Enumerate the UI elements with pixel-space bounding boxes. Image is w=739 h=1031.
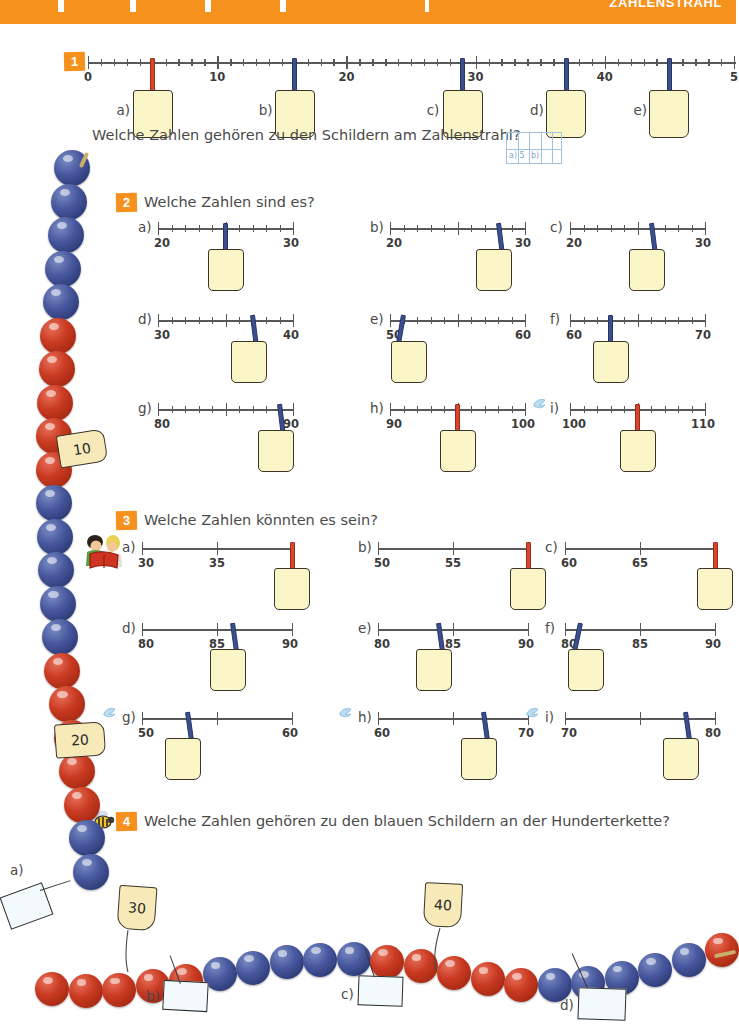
bead-highlight: [613, 966, 623, 973]
bead-blue: [236, 951, 270, 985]
ex4-label-b: b): [146, 988, 160, 1004]
bead-blue: [638, 953, 672, 987]
bead-highlight: [680, 948, 690, 955]
bead-red: [404, 949, 438, 983]
bead-highlight: [512, 973, 522, 980]
bead-highlight: [311, 947, 321, 954]
bead-red: [370, 945, 404, 979]
bead-highlight: [546, 973, 556, 980]
bead-red: [437, 956, 471, 990]
bead-red: [471, 962, 505, 996]
ex4-label-a: a): [10, 862, 24, 878]
bead-highlight: [177, 968, 187, 975]
bead-highlight: [43, 977, 53, 984]
ex4-label-c: c): [341, 986, 354, 1002]
bead-highlight: [144, 974, 154, 981]
bead-chain-tag-20-value: 20: [56, 730, 105, 749]
bead-highlight: [278, 950, 288, 957]
bead-highlight: [345, 947, 355, 954]
ex4-answer-box-d[interactable]: [577, 987, 626, 1021]
bead-highlight: [479, 967, 489, 974]
ex4-answer-box-c[interactable]: [357, 975, 403, 1007]
bead-chain-tag-30-value: 30: [118, 899, 155, 917]
bead-highlight: [412, 954, 422, 961]
bead-chain-tag-30: 30: [117, 885, 158, 932]
bead-blue: [303, 943, 337, 977]
bead-highlight: [378, 949, 388, 956]
bead-chain-tag-40-value: 40: [425, 896, 462, 914]
bead-red: [35, 972, 69, 1006]
bead-highlight: [445, 960, 455, 967]
bead-highlight: [713, 938, 723, 945]
bead-highlight: [110, 978, 120, 985]
bead-red: [102, 973, 136, 1007]
bead-chain-tag-20: 20: [54, 721, 106, 758]
bead-highlight: [646, 958, 656, 965]
bead-blue: [270, 945, 304, 979]
bead-highlight: [244, 955, 254, 962]
bead-red: [69, 974, 103, 1008]
bead-blue: [672, 943, 706, 977]
bead-red: [504, 968, 538, 1002]
bead-highlight: [77, 979, 87, 986]
bead-chain-tag-10-value: 10: [58, 437, 106, 460]
ex4-answer-box-b[interactable]: [162, 980, 209, 1012]
bead-highlight: [211, 962, 221, 969]
ex4-label-d: d): [560, 997, 574, 1013]
bead-chain-tag-40: 40: [423, 882, 463, 928]
